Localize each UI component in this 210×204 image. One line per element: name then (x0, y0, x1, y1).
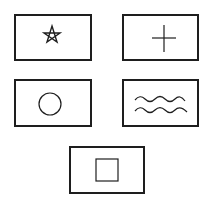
card-waves (122, 79, 199, 127)
square-icon (71, 148, 143, 192)
cross-icon (124, 16, 197, 59)
card-circle (14, 79, 92, 127)
card-star (14, 14, 92, 61)
waves-icon (124, 81, 197, 125)
star-icon (16, 16, 90, 59)
card-cross (122, 14, 199, 61)
circle-icon (16, 81, 90, 125)
card-square (69, 146, 145, 194)
